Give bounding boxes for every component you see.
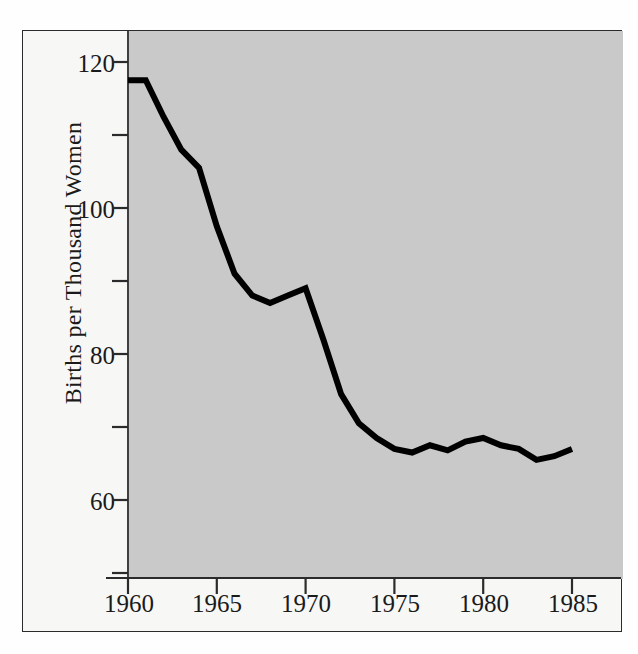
y-tick-label-100: 100: [45, 197, 115, 222]
chart-frame: Births per Thousand Women 120 100 80 60 …: [22, 30, 622, 632]
x-tick-label-1985: 1985: [523, 591, 623, 616]
plot-area-background: [129, 31, 623, 579]
x-tick-label-1960: 1960: [79, 591, 179, 616]
x-tick-label-1980: 1980: [434, 591, 534, 616]
y-tick-label-120: 120: [45, 51, 115, 76]
y-tick-label-60: 60: [45, 489, 115, 514]
x-axis-tick-labels: 1960 1965 1970 1975 1980 1985: [23, 591, 623, 631]
x-tick-label-1970: 1970: [256, 591, 356, 616]
x-tick-label-1975: 1975: [345, 591, 445, 616]
x-tick-label-1965: 1965: [167, 591, 267, 616]
y-tick-label-80: 80: [45, 343, 115, 368]
chart-figure: Births per Thousand Women 120 100 80 60 …: [0, 0, 638, 654]
y-axis-tick-labels: 120 100 80 60: [23, 31, 115, 633]
